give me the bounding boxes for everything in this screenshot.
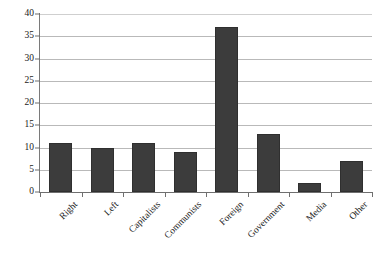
- bar-foreign: [215, 27, 238, 192]
- bar-communists: [174, 152, 197, 192]
- x-label-capitalists: Capitalists: [127, 200, 162, 235]
- x-tickmark: [372, 192, 373, 197]
- y-tick-label: 25: [25, 76, 41, 86]
- bar-capitalists: [132, 143, 155, 192]
- y-tick-label: 30: [25, 54, 41, 64]
- y-tick-label: 5: [29, 165, 40, 175]
- y-tick-label: 35: [25, 32, 41, 42]
- bar-left: [91, 148, 114, 193]
- x-label-foreign: Foreign: [218, 200, 246, 228]
- plot-area: 0510152025303540: [40, 14, 372, 192]
- y-tick-label: 0: [29, 187, 40, 197]
- x-label-government: Government: [247, 200, 287, 240]
- bar-other: [340, 161, 363, 192]
- x-tickmark: [40, 192, 41, 197]
- bar-media: [298, 183, 321, 192]
- x-tickmark: [165, 192, 166, 197]
- y-tick-label: 20: [25, 98, 41, 108]
- x-tickmark: [248, 192, 249, 197]
- x-tickmark: [82, 192, 83, 197]
- x-tickmark: [123, 192, 124, 197]
- x-label-right: Right: [58, 200, 80, 222]
- y-tick-label: 40: [25, 9, 41, 19]
- y-tick-label: 10: [25, 143, 41, 153]
- x-label-media: Media: [305, 200, 329, 224]
- x-label-left: Left: [103, 200, 121, 218]
- bar-right: [49, 143, 72, 192]
- bars-group: [40, 14, 372, 192]
- x-tickmark: [289, 192, 290, 197]
- bar-government: [257, 134, 280, 192]
- x-tickmark: [206, 192, 207, 197]
- y-tick-label: 15: [25, 121, 41, 131]
- x-label-communists: Communists: [163, 200, 204, 241]
- x-tickmark: [331, 192, 332, 197]
- x-label-other: Other: [348, 200, 370, 222]
- bar-chart-figure: 0510152025303540 RightLeftCapitalistsCom…: [0, 0, 385, 265]
